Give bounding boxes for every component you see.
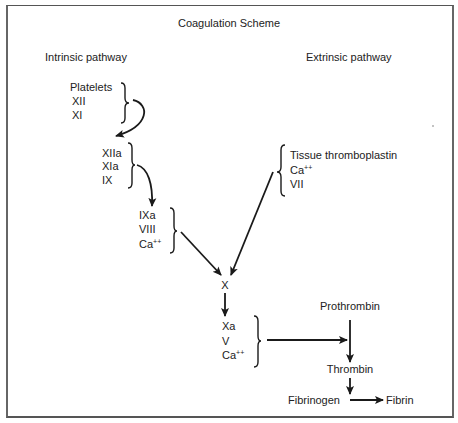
arrow-icon — [116, 100, 144, 136]
intrinsic-group-2: XIIa XIa IX — [102, 143, 135, 188]
factor-vii: VII — [290, 178, 303, 190]
prothrombin: Prothrombin — [320, 300, 380, 312]
extrinsic-pathway-label: Extrinsic pathway — [306, 51, 392, 63]
factor-v: V — [222, 335, 230, 347]
factor-platelets: Platelets — [70, 81, 113, 93]
brace-icon — [170, 208, 177, 253]
fibrin: Fibrin — [386, 394, 414, 406]
brace-icon — [254, 316, 261, 367]
coagulation-diagram: Coagulation Scheme Intrinsic pathway Ext… — [0, 0, 458, 423]
factor-xiia: XIIa — [102, 147, 122, 159]
factor-ixa: IXa — [139, 209, 156, 221]
factor-xia: XIa — [102, 160, 119, 172]
speck — [432, 125, 434, 127]
factor-calcium: Ca++ — [139, 238, 161, 250]
diagram-title: Coagulation Scheme — [178, 17, 280, 29]
factor-viii: VIII — [139, 223, 156, 235]
factor-xii: XII — [72, 95, 85, 107]
factor-tissue-thromboplastin: Tissue thromboplastin — [290, 149, 397, 161]
intrinsic-pathway-label: Intrinsic pathway — [45, 51, 127, 63]
intrinsic-group-3: IXa VIII Ca++ — [139, 208, 177, 253]
arrow-icon — [181, 232, 221, 275]
brace-icon — [128, 143, 135, 188]
factor-xi: XI — [72, 109, 82, 121]
thrombin: Thrombin — [327, 363, 373, 375]
factor-xa: Xa — [222, 320, 236, 332]
factor-calcium-common: Ca++ — [222, 349, 244, 361]
intrinsic-group-1: Platelets XII XI — [70, 81, 129, 123]
fibrinogen: Fibrinogen — [288, 394, 340, 406]
factor-calcium-extrinsic: Ca++ — [290, 164, 312, 176]
brace-icon — [121, 83, 129, 123]
brace-icon — [277, 145, 285, 196]
extrinsic-group: Tissue thromboplastin Ca++ VII — [277, 145, 397, 196]
factor-x: X — [221, 279, 229, 291]
arrow-icon — [137, 165, 152, 206]
arrow-icon — [231, 172, 273, 275]
factor-ix: IX — [102, 174, 113, 186]
common-group-xa: Xa V Ca++ — [222, 316, 261, 367]
